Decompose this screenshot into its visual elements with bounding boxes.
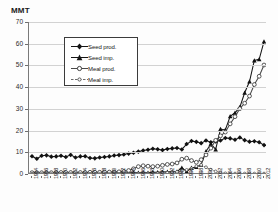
data-point [97, 155, 102, 160]
data-point [209, 146, 213, 150]
x-tick-label: 1978 [101, 168, 107, 179]
x-tick-label: 1974 [82, 168, 88, 179]
data-point [194, 140, 199, 145]
x-tick-mark [224, 176, 225, 178]
data-point [93, 156, 98, 161]
data-point [219, 134, 223, 138]
x-tick-mark [70, 176, 71, 178]
x-tick-mark [186, 176, 187, 178]
legend-label-meal-prod: Meal prod. [88, 66, 115, 72]
x-tick-label: 1994 [178, 168, 184, 179]
data-point [204, 153, 208, 157]
x-tick-label: 1966 [43, 168, 49, 179]
gridline [29, 131, 266, 132]
x-tick-label: 1988 [149, 168, 155, 179]
data-point [78, 154, 83, 159]
x-tick-mark [195, 176, 196, 178]
x-tick-mark [253, 176, 254, 178]
x-axis-labels: 1964196619681970197219741976197819801982… [28, 176, 266, 212]
data-point [242, 90, 247, 94]
data-point [175, 161, 179, 165]
data-point [112, 153, 117, 158]
data-point [185, 156, 189, 160]
y-tick-label: 60 [7, 40, 23, 47]
data-point [218, 138, 223, 143]
x-tick-mark [79, 176, 80, 178]
gridline [29, 22, 266, 23]
x-tick-label: 1970 [62, 168, 68, 179]
data-point [117, 153, 122, 158]
data-point [228, 122, 232, 126]
data-point [204, 138, 209, 143]
data-point [102, 155, 107, 160]
data-point [44, 153, 49, 158]
data-point [262, 143, 266, 148]
data-point [73, 155, 78, 160]
data-point [233, 137, 238, 142]
data-point [68, 153, 73, 158]
x-tick-mark [118, 176, 119, 178]
data-point [155, 147, 160, 152]
data-point [214, 138, 218, 142]
x-tick-mark [41, 176, 42, 178]
x-tick-label: 1998 [198, 168, 204, 179]
gridline [29, 152, 266, 153]
filled-diamond-icon [71, 42, 88, 51]
data-point [170, 146, 175, 151]
data-point [161, 163, 165, 167]
y-tick-label: 0 [7, 170, 23, 177]
legend-label-meal-imp: Meal imp. [88, 77, 113, 83]
x-tick-label: 1976 [91, 168, 97, 179]
data-point [49, 154, 54, 159]
y-tick-label: 50 [7, 61, 23, 68]
x-tick-label: 1964 [33, 168, 39, 179]
data-point [257, 74, 261, 78]
y-tick-mark [25, 174, 28, 175]
x-tick-mark [128, 176, 129, 178]
x-tick-mark [31, 176, 32, 178]
series-seed-prod [30, 135, 266, 161]
x-tick-label: 2000 [207, 168, 213, 179]
x-tick-mark [176, 176, 177, 178]
gridline [29, 87, 266, 88]
legend-item-seed-prod: Seed prod. [65, 41, 137, 52]
data-point [199, 141, 204, 146]
x-tick-mark [263, 176, 264, 178]
x-tick-label: 1992 [169, 168, 175, 179]
data-point [257, 140, 262, 145]
data-point [170, 162, 174, 166]
x-tick-mark [205, 176, 206, 178]
data-point [247, 139, 252, 144]
y-tick-label: 70 [7, 18, 23, 25]
x-tick-mark [137, 176, 138, 178]
data-point [233, 115, 237, 119]
data-point [238, 135, 243, 140]
data-point [88, 156, 93, 161]
y-tick-label: 10 [7, 148, 23, 155]
data-point [194, 160, 198, 164]
x-tick-label: 2002 [217, 168, 223, 179]
data-point [223, 136, 228, 141]
data-point [83, 154, 88, 159]
x-tick-label: 1996 [188, 168, 194, 179]
x-tick-mark [147, 176, 148, 178]
data-point [175, 146, 180, 151]
data-point [64, 155, 69, 160]
data-point [252, 83, 256, 87]
data-point [54, 154, 59, 159]
data-point [165, 147, 170, 152]
x-tick-mark [157, 176, 158, 178]
data-point [107, 154, 112, 159]
data-point [190, 159, 194, 163]
x-tick-mark [234, 176, 235, 178]
data-point [151, 147, 156, 152]
x-tick-mark [108, 176, 109, 178]
data-point [248, 94, 252, 98]
data-point [30, 154, 35, 159]
legend-item-meal-imp: Meal imp. [65, 74, 137, 85]
x-tick-mark [89, 176, 90, 178]
x-tick-mark [244, 176, 245, 178]
legend-label-seed-prod: Seed prod. [88, 44, 116, 50]
x-tick-label: 2006 [236, 168, 242, 179]
x-tick-mark [99, 176, 100, 178]
